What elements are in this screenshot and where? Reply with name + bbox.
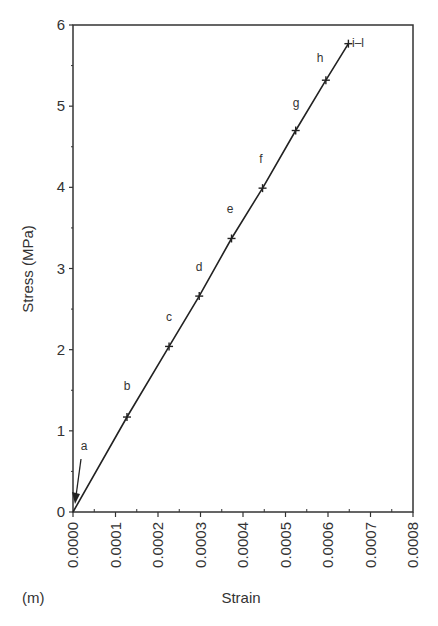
x-tick-label: 0.0006 bbox=[319, 522, 336, 568]
data-line bbox=[73, 44, 348, 512]
y-tick-label: 2 bbox=[57, 341, 65, 358]
plot-frame bbox=[73, 25, 413, 512]
point-label-f: f bbox=[259, 152, 263, 166]
y-tick-label: 0 bbox=[57, 503, 65, 520]
point-label-h: h bbox=[317, 51, 324, 65]
y-axis-title: Stress (MPa) bbox=[19, 225, 36, 313]
point-label-i-l: i–l bbox=[352, 36, 364, 50]
x-tick-label: 0.0001 bbox=[107, 522, 124, 568]
x-tick-label: 0.0002 bbox=[149, 522, 166, 568]
point-label-c: c bbox=[166, 310, 172, 324]
x-tick-label: 0.0007 bbox=[362, 522, 379, 568]
point-label-d: d bbox=[196, 260, 203, 274]
plot-area: 01234560.00000.00010.00020.00030.00040.0… bbox=[57, 16, 421, 568]
y-tick-label: 1 bbox=[57, 422, 65, 439]
x-tick-label: 0.0004 bbox=[234, 522, 251, 568]
panel-label: (m) bbox=[22, 589, 45, 606]
arrow-icon bbox=[76, 459, 81, 496]
point-label-g: g bbox=[293, 96, 300, 110]
x-tick-label: 0.0008 bbox=[404, 522, 421, 568]
x-tick-label: 0.0000 bbox=[64, 522, 81, 568]
x-axis-title: Strain bbox=[221, 589, 260, 606]
y-tick-label: 5 bbox=[57, 97, 65, 114]
point-label-b: b bbox=[124, 379, 131, 393]
point-label-a: a bbox=[81, 439, 88, 453]
x-tick-label: 0.0003 bbox=[192, 522, 209, 568]
point-label-e: e bbox=[227, 202, 234, 216]
x-tick-label: 0.0005 bbox=[277, 522, 294, 568]
y-tick-label: 3 bbox=[57, 260, 65, 277]
stress-strain-chart: 01234560.00000.00010.00020.00030.00040.0… bbox=[0, 0, 438, 626]
y-tick-label: 4 bbox=[57, 178, 65, 195]
y-tick-label: 6 bbox=[57, 16, 65, 33]
